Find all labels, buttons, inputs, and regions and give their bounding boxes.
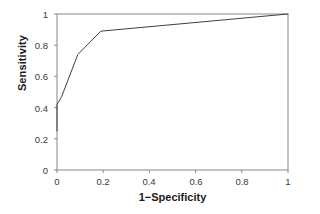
roc-chart: Sensitivity 1−Specificity 1 0.8 0.6 0.4 … (0, 0, 320, 214)
plot-frame (57, 14, 288, 170)
roc-curve-line (57, 14, 288, 131)
plot-area (0, 0, 320, 214)
